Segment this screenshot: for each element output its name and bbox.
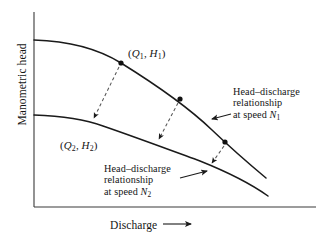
q2-symbol: Q — [64, 139, 72, 151]
similarity-arrow-2 — [159, 103, 178, 139]
point-label-q1h1: (Q1, H1) — [128, 47, 165, 62]
pump-characteristic-figure: Manometric head Discharge (Q1, H1) (Q2, … — [0, 0, 316, 240]
point-label-q2h2: (Q2, H2) — [60, 139, 97, 154]
data-point-q1h1 — [118, 60, 123, 65]
callout-text-n1: Head–discharge relationship at speed N1 — [233, 86, 300, 122]
data-point-upper-3 — [222, 139, 227, 144]
h1-subscript: 1 — [158, 52, 162, 61]
similarity-arrow-1 — [94, 67, 119, 118]
q2-subscript: 2 — [72, 144, 76, 153]
callout-n1-line3: at speed N1 — [233, 109, 300, 122]
x-axis-label: Discharge — [110, 219, 157, 232]
y-axis-label: Manometric head — [16, 24, 29, 144]
n2-subscript: 2 — [147, 189, 151, 198]
callout-n1-line1: Head–discharge — [233, 86, 300, 97]
callout-n2-line2: relationship — [104, 174, 171, 185]
callout-leader-n1 — [212, 114, 231, 119]
h2-subscript: 2 — [90, 144, 94, 153]
n1-subscript: 1 — [276, 112, 280, 121]
data-point-upper-2 — [177, 96, 182, 101]
callout-n2-line3-text: at speed — [104, 186, 141, 197]
callout-n2-line3: at speed N2 — [104, 186, 171, 199]
h1-symbol: H — [150, 47, 158, 59]
q1-subscript: 1 — [140, 52, 144, 61]
similarity-arrow-3 — [212, 146, 224, 163]
callout-leader-n2 — [180, 171, 207, 178]
callout-text-n2: Head–discharge relationship at speed N2 — [104, 163, 171, 199]
q1-symbol: Q — [132, 47, 140, 59]
callout-n2-line1: Head–discharge — [104, 163, 171, 174]
callout-n1-line3-text: at speed — [233, 109, 270, 120]
callout-n1-line2: relationship — [233, 97, 300, 108]
h2-symbol: H — [82, 139, 90, 151]
